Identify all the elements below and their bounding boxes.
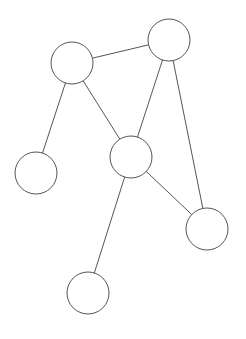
node-layer [15, 19, 228, 314]
graph-edge [92, 45, 148, 58]
graph-edge [83, 81, 120, 139]
graph-node[interactable] [51, 42, 93, 84]
graph-edge [43, 83, 66, 153]
graph-node[interactable] [15, 152, 57, 194]
graph-node[interactable] [148, 19, 190, 61]
graph-edge [173, 61, 203, 209]
graph-edge [137, 60, 162, 137]
graph-node[interactable] [110, 136, 152, 178]
graph-node[interactable] [186, 208, 228, 250]
graph-edge [146, 171, 192, 214]
graph-edge [94, 177, 124, 273]
graph-node[interactable] [67, 272, 109, 314]
graph-diagram [0, 0, 246, 339]
